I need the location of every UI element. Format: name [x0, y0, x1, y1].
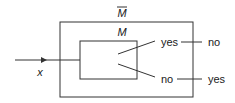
inner-machine-label: M: [117, 26, 127, 38]
input-label: x: [36, 66, 43, 78]
outer-machine-label: M: [117, 7, 127, 19]
outer-output-no: no: [208, 36, 220, 48]
diagram-canvas: M M x yes no no yes: [0, 0, 235, 103]
inner-machine-box: [80, 41, 137, 79]
inner-output-no: no: [161, 73, 173, 85]
outer-output-yes: yes: [208, 73, 226, 85]
inner-output-yes: yes: [161, 36, 179, 48]
